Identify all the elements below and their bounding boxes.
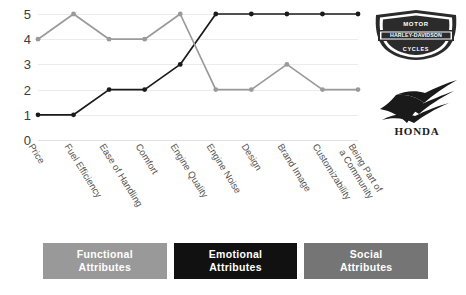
data-point (356, 87, 361, 92)
x-axis-category-label: Price (26, 142, 46, 166)
data-point (320, 87, 325, 92)
data-point (213, 87, 218, 92)
data-point (178, 12, 183, 17)
y-axis-tick-label: 4 (24, 33, 31, 46)
legend-group-social: Social Attributes (304, 243, 428, 279)
series-harley-davidson (36, 12, 361, 118)
harley-center-text: HARLEY-DAVIDSON (390, 32, 442, 38)
x-axis-category-labels: PriceFuel EfficiencyEase of HandlingComf… (38, 142, 358, 232)
legend-group-functional: Functional Attributes (43, 243, 167, 279)
y-axis-tick-label: 3 (24, 58, 31, 71)
attribute-group-legend: Functional AttributesEmotional Attribute… (43, 243, 428, 279)
data-point (142, 37, 147, 42)
data-point (178, 62, 183, 67)
data-point (284, 62, 289, 67)
y-axis-tick-label: 2 (24, 83, 31, 96)
honda-logo: HONDA (374, 76, 460, 138)
harley-davidson-logo: HARLEY-DAVIDSON MOTOR CYCLES (372, 9, 460, 61)
data-point (213, 12, 218, 17)
harley-bottom-text: CYCLES (403, 46, 430, 52)
x-axis-category-label: Comfort (133, 142, 160, 176)
series-line (38, 14, 358, 115)
y-axis-tick-label: 1 (24, 108, 31, 121)
data-point (107, 37, 112, 42)
data-point (71, 112, 76, 117)
harley-davidson-shield-icon: HARLEY-DAVIDSON MOTOR CYCLES (372, 9, 460, 61)
harley-top-text: MOTOR (403, 21, 429, 27)
data-point (249, 12, 254, 17)
series-lines (38, 14, 358, 140)
data-point (356, 12, 361, 17)
data-point (320, 12, 325, 17)
data-point (36, 37, 41, 42)
series-line (38, 14, 358, 90)
data-point (284, 12, 289, 17)
honda-wing-icon: HONDA (374, 76, 460, 138)
x-axis-category-label: Engine Quality (168, 142, 210, 200)
data-point (142, 87, 147, 92)
legend-group-emotional: Emotional Attributes (174, 243, 298, 279)
plot-area: 012345 (38, 14, 358, 140)
y-axis-tick-label: 5 (24, 8, 31, 21)
brand-attribute-line-chart: 012345 PriceFuel EfficiencyEase of Handl… (0, 0, 466, 295)
series-honda (36, 12, 361, 92)
x-axis-category-label: Design (239, 142, 264, 173)
x-axis-line (38, 140, 358, 141)
x-axis-category-label: Engine Noise (204, 142, 243, 196)
data-point (71, 12, 76, 17)
data-point (107, 87, 112, 92)
honda-wordmark: HONDA (395, 125, 440, 137)
data-point (36, 112, 41, 117)
x-axis-category-label: Fuel Efficiency (62, 142, 104, 200)
data-point (249, 87, 254, 92)
x-axis-category-label: Brand Image (275, 142, 313, 194)
